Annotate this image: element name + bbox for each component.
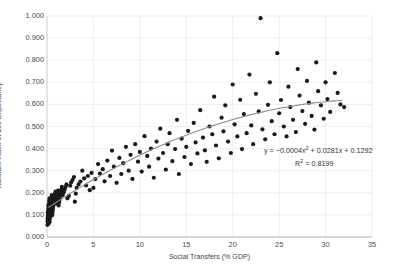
data-point — [294, 130, 298, 134]
data-point — [221, 129, 225, 133]
data-point — [251, 142, 255, 146]
data-point — [140, 169, 144, 173]
data-point — [108, 174, 112, 178]
data-point — [158, 127, 162, 131]
data-point — [336, 91, 340, 95]
data-points — [45, 16, 346, 227]
data-point — [101, 167, 105, 171]
data-point — [226, 139, 230, 143]
data-point — [212, 95, 216, 99]
x-tick-label: 0 — [35, 240, 59, 249]
data-point — [105, 158, 109, 162]
data-point — [282, 124, 286, 128]
data-point — [310, 114, 314, 118]
data-point — [219, 116, 223, 120]
data-point — [325, 97, 329, 101]
data-point — [184, 145, 188, 149]
data-point — [127, 169, 131, 173]
data-point — [314, 60, 318, 64]
data-point — [164, 167, 168, 171]
data-point — [238, 98, 242, 102]
data-point — [229, 151, 233, 155]
data-point — [186, 129, 190, 133]
data-point — [192, 121, 196, 125]
data-point — [291, 118, 295, 122]
data-point — [124, 145, 128, 149]
data-point — [272, 132, 276, 136]
data-point — [115, 181, 119, 185]
x-tick-label: 25 — [267, 240, 291, 249]
data-point — [258, 16, 262, 20]
data-point — [342, 105, 346, 109]
data-point — [161, 151, 165, 155]
data-point — [152, 176, 156, 180]
data-point — [214, 143, 218, 147]
data-point — [312, 127, 316, 131]
data-point — [89, 171, 93, 175]
data-point — [235, 134, 239, 138]
data-point — [73, 200, 77, 204]
trendline-equation-annotation: y = −0.0004x2 + 0.0281x + 0.1292 R2 = 0.… — [264, 143, 373, 170]
data-point — [300, 109, 304, 113]
data-point — [74, 192, 78, 196]
data-point — [203, 148, 207, 152]
data-point — [286, 85, 290, 89]
data-point — [316, 89, 320, 93]
data-point — [147, 165, 151, 169]
data-point — [86, 174, 90, 178]
x-tick-label: 30 — [314, 240, 338, 249]
data-point — [240, 147, 244, 151]
data-point — [82, 176, 86, 180]
data-point — [167, 131, 171, 135]
data-point — [154, 139, 158, 143]
x-tick-label: 20 — [221, 240, 245, 249]
data-point — [201, 135, 205, 139]
data-point — [72, 175, 76, 179]
data-point — [268, 80, 272, 84]
data-point — [210, 132, 214, 136]
data-point — [133, 142, 137, 146]
data-point — [130, 177, 134, 181]
data-point — [245, 131, 249, 135]
equation-text: y = −0.0004x2 + 0.0281x + 0.1292 — [264, 143, 373, 156]
data-point — [110, 148, 114, 152]
data-point — [223, 103, 227, 107]
x-tick-label: 5 — [81, 240, 105, 249]
plot-area — [0, 0, 404, 271]
data-point — [173, 147, 177, 151]
data-point — [217, 156, 221, 160]
data-point — [156, 156, 160, 160]
data-point — [119, 172, 123, 176]
data-point — [231, 82, 235, 86]
x-tick-label: 10 — [128, 240, 152, 249]
data-point — [205, 160, 209, 164]
data-point — [138, 150, 142, 154]
data-point — [260, 127, 264, 131]
data-point — [195, 151, 199, 155]
data-point — [177, 172, 181, 176]
data-point — [319, 103, 323, 107]
data-point — [338, 102, 342, 106]
data-point — [254, 92, 258, 96]
x-axis-title: Social Transfers (% GDP) — [47, 253, 372, 261]
data-point — [145, 154, 149, 158]
data-point — [88, 188, 92, 192]
data-point — [297, 93, 301, 97]
data-point — [170, 159, 174, 163]
data-point — [232, 122, 236, 126]
data-point — [247, 72, 251, 76]
data-point — [117, 156, 121, 160]
data-point — [64, 182, 68, 186]
data-point — [198, 108, 202, 112]
data-point — [142, 134, 146, 138]
data-point — [275, 51, 279, 55]
data-point — [303, 122, 307, 126]
r-squared-text: R2 = 0.8199 — [264, 156, 373, 169]
data-point — [96, 162, 100, 166]
data-point — [182, 155, 186, 159]
data-point — [277, 111, 281, 115]
data-point — [263, 137, 267, 141]
data-point — [279, 98, 283, 102]
x-tick-label: 35 — [360, 240, 384, 249]
data-point — [328, 110, 332, 114]
